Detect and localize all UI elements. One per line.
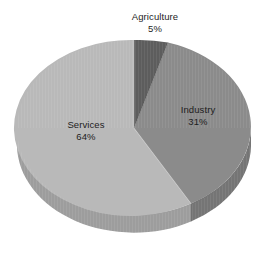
pie-chart-graphic [0, 0, 268, 253]
pie-chart: Agriculture 5% Industry 31% Services 64% [0, 0, 268, 253]
